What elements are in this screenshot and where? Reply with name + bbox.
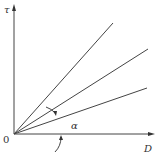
angle-label: α: [71, 120, 78, 131]
y-axis-label: τ: [4, 4, 10, 15]
diagram-canvas: τ D 0 α: [0, 0, 159, 161]
x-axis-label: D: [143, 143, 152, 154]
rotation-arrow-upper: [46, 107, 55, 113]
y-axis-arrowhead: [12, 4, 16, 11]
x-axis-arrowhead: [148, 132, 155, 136]
line-middle: [14, 49, 148, 134]
origin-label: 0: [3, 134, 9, 145]
upper-arrowhead: [53, 111, 57, 116]
lower-arrowhead: [59, 135, 63, 140]
